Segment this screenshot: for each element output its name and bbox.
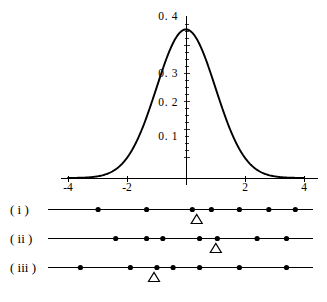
data-dot — [293, 207, 298, 212]
data-dot — [209, 207, 214, 212]
data-dot — [113, 236, 118, 241]
figure-root: 0. 4 0. 3 0. 2 0. 1 -4 -2 2 4 ( i ) ( ii… — [0, 0, 327, 302]
data-dot — [266, 207, 271, 212]
data-dot — [96, 207, 101, 212]
data-dot — [190, 207, 195, 212]
number-line-row-iii: ( iii ) — [10, 260, 313, 282]
data-dot — [128, 265, 133, 270]
triangle-marker-icon — [210, 244, 221, 253]
data-dot — [284, 236, 289, 241]
data-dot — [237, 207, 242, 212]
data-dot — [171, 265, 176, 270]
data-dot — [197, 236, 202, 241]
data-dot — [215, 236, 220, 241]
triangle-marker-icon — [149, 273, 160, 282]
data-dot — [237, 265, 242, 270]
data-dot — [144, 207, 149, 212]
number-line-row-ii: ( ii ) — [10, 231, 313, 253]
data-dot — [160, 236, 165, 241]
number-line-row-i: ( i ) — [10, 202, 313, 224]
row-label-ii: ( ii ) — [10, 231, 32, 246]
number-lines-group: ( i ) ( ii ) ( iii ) — [0, 0, 327, 302]
row-label-iii: ( iii ) — [10, 260, 36, 275]
data-dot — [255, 236, 260, 241]
data-dot — [284, 265, 289, 270]
data-dot — [144, 236, 149, 241]
triangle-marker-icon — [191, 215, 202, 224]
data-dot — [154, 265, 159, 270]
data-dot — [197, 265, 202, 270]
row-label-i: ( i ) — [10, 202, 29, 217]
data-dot — [78, 265, 83, 270]
